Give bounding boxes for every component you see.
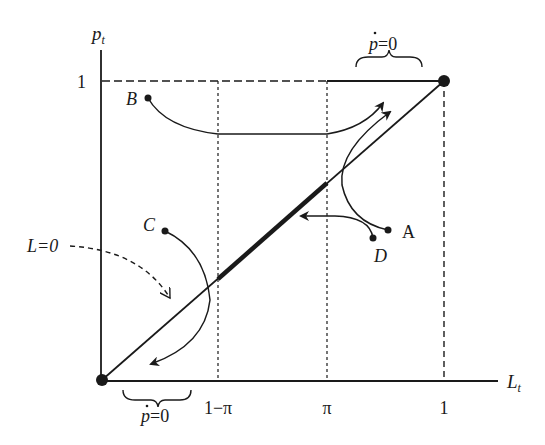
x-tick-one-minus-pi: 1−π: [204, 398, 232, 418]
top-brace-label: p=0: [367, 32, 397, 54]
svg-text:p=0: p=0: [367, 34, 397, 54]
bottom-brace-label: p=0: [139, 405, 169, 426]
trajectory-b: [148, 98, 383, 134]
l-zero-label: L=0: [26, 236, 58, 256]
x-tick-pi: π: [322, 398, 331, 418]
svg-text:p=0: p=0: [139, 406, 169, 426]
origin-dot: [96, 374, 108, 386]
l-zero-dashed-arrow: [70, 246, 170, 298]
y-axis-label: pt: [90, 23, 106, 47]
point-d-label: D: [373, 246, 387, 266]
x-axis-label: Lt: [506, 371, 522, 395]
x-tick-one: 1: [440, 398, 449, 418]
trajectory-c: [151, 231, 210, 364]
thick-diagonal-segment: [218, 183, 327, 279]
trajectory-a: [342, 112, 390, 230]
phase-diagram: pt Lt 1 1−π π 1 B C A D p=0 p=0 L=0: [0, 0, 545, 445]
point-a-label: A: [402, 222, 415, 242]
bottom-brace: [123, 390, 191, 407]
top-right-dot: [438, 75, 450, 87]
point-b-label: B: [126, 89, 137, 109]
y-tick-one: 1: [77, 72, 86, 92]
point-c-label: C: [143, 215, 156, 235]
